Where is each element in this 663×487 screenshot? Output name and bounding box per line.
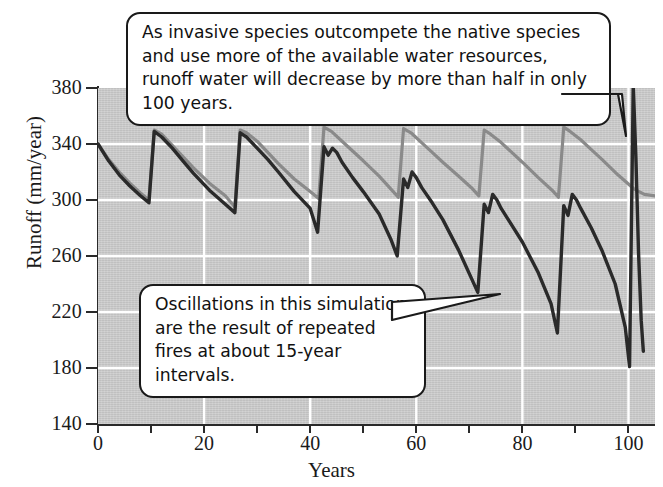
y-tick-180 bbox=[86, 367, 98, 369]
y-tick-label-300: 300 bbox=[8, 189, 82, 209]
x-tick-90 bbox=[574, 424, 576, 433]
bottom-annotation-callout: Oscillations in this simulation are the … bbox=[139, 284, 426, 398]
x-axis-title: Years bbox=[0, 458, 663, 483]
y-tick-220 bbox=[86, 311, 98, 313]
x-tick-label-20: 20 bbox=[174, 432, 234, 454]
y-tick-label-180: 180 bbox=[8, 357, 82, 377]
y-tick-label-260: 260 bbox=[8, 245, 82, 265]
x-tick-30 bbox=[256, 424, 258, 433]
runoff-simulation-figure: Runoff (mm/year) 140180220260300340380 0… bbox=[0, 0, 663, 487]
x-tick-label-40: 40 bbox=[280, 432, 340, 454]
x-tick-50 bbox=[362, 424, 364, 433]
y-tick-300 bbox=[86, 199, 98, 201]
top-annotation-callout: As invasive species outcompete the nativ… bbox=[126, 12, 611, 126]
x-tick-label-100: 100 bbox=[598, 432, 658, 454]
y-tick-340 bbox=[86, 143, 98, 145]
y-tick-label-380: 380 bbox=[8, 77, 82, 97]
x-tick-label-0: 0 bbox=[68, 432, 128, 454]
y-tick-label-140: 140 bbox=[8, 413, 82, 433]
bottom-callout-tail bbox=[388, 286, 508, 336]
x-tick-10 bbox=[150, 424, 152, 433]
x-tick-label-60: 60 bbox=[386, 432, 446, 454]
top-callout-tail bbox=[560, 92, 650, 138]
y-tick-380 bbox=[86, 87, 98, 89]
x-axis-line bbox=[97, 424, 655, 426]
x-tick-label-80: 80 bbox=[492, 432, 552, 454]
y-tick-label-340: 340 bbox=[8, 133, 82, 153]
y-tick-260 bbox=[86, 255, 98, 257]
x-tick-70 bbox=[468, 424, 470, 433]
y-tick-label-220: 220 bbox=[8, 301, 82, 321]
